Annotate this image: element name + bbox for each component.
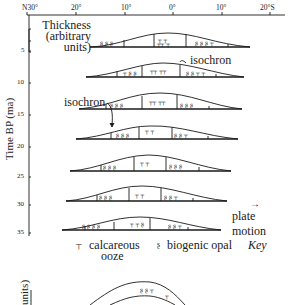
lower-y-axis-title: units)	[18, 280, 30, 305]
sediment-lens-20ma	[76, 126, 238, 139]
key-calcareous-label-2: ooze	[101, 249, 124, 264]
svg-text:ʂ ʂ ʂ: ʂ ʂ ʂ	[100, 39, 113, 47]
svg-text:ʂ ʂ ʂ: ʂ ʂ ʂ	[180, 101, 193, 109]
svg-text:ʂ ʂ ʂ: ʂ ʂ ʂ	[110, 101, 123, 109]
y-tick-30: 30	[17, 200, 24, 208]
y-tick-10: 10	[17, 78, 24, 86]
plate-motion-label: plate motion	[232, 209, 292, 239]
svg-text:ʂ ʂ ┬: ʂ ʂ ┬	[174, 131, 188, 139]
svg-text:ʂ ʂ ʂ: ʂ ʂ ʂ	[99, 193, 112, 201]
thickness-legend: Thickness (arbitrary units)	[37, 20, 91, 53]
svg-text:┬ ┬: ┬ ┬	[144, 127, 155, 135]
svg-text:┬ ʂ ʂ: ┬ ʂ ʂ	[122, 69, 137, 77]
y-tick-25: 25	[17, 172, 24, 180]
sediment-lens-25ma	[70, 155, 231, 171]
opal-symbol-icon: ʂ	[157, 240, 160, 249]
thickness-legend-line3: units)	[37, 42, 91, 53]
key-opal-label: biogenic opal	[167, 238, 232, 253]
isochron-label-lower: isochron	[64, 95, 105, 110]
svg-text:┬ ┬: ┬ ┬	[139, 159, 150, 167]
y-axis-title: Time BP (ma)	[3, 98, 15, 160]
key-title: Key	[248, 238, 267, 253]
sediment-lens-30ma	[66, 186, 227, 201]
svg-text:ʂ ʂ ʂ ┬: ʂ ʂ ʂ ┬	[195, 39, 214, 47]
y-tick-35: 35	[17, 228, 24, 236]
svg-text:┬┬ ┬┬: ┬┬ ┬┬	[148, 98, 166, 106]
svg-text:ʂ ʂ ┬: ʂ ʂ ┬	[168, 222, 182, 230]
svg-text:┬┬ ┬: ┬┬ ┬	[156, 40, 170, 48]
calcareous-symbol-icon: ┬	[76, 240, 82, 249]
y-tick-20: 20	[17, 142, 24, 150]
svg-text:ʂ ʂ ʂ ʂ: ʂ ʂ ʂ ʂ	[82, 222, 100, 230]
svg-text:ʂ ʂ ʂ: ʂ ʂ ʂ	[116, 131, 129, 139]
svg-text:┬: ┬	[164, 292, 169, 300]
svg-text:ʂ ʂ ┬: ʂ ʂ ┬	[140, 286, 154, 294]
svg-text:┬ ┬: ┬ ┬	[134, 191, 145, 199]
sediment-lens-5ma	[90, 33, 250, 47]
y-tick-5: 5	[21, 46, 25, 54]
svg-text:ʂ ʂ ┬ ┬: ʂ ʂ ┬ ┬	[186, 69, 205, 77]
svg-text:┬ ┬ ʂ: ┬ ┬ ʂ	[129, 220, 144, 228]
svg-text:ʂ ʂ ʂ: ʂ ʂ ʂ	[169, 162, 182, 170]
svg-text:ʂ ʂ ┬: ʂ ʂ ┬	[164, 193, 178, 201]
svg-text:ʂ ʂ ʂ: ʂ ʂ ʂ	[103, 163, 116, 171]
svg-text:┬┬ ┬┬: ┬┬ ┬┬	[149, 67, 167, 75]
isochron-upper-leader	[180, 61, 186, 63]
lower-lens-outer	[90, 282, 185, 305]
plate-motion-arrow: →	[250, 198, 260, 209]
isochron-label-upper: isochron	[190, 53, 231, 68]
y-tick-15: 15	[17, 110, 24, 118]
